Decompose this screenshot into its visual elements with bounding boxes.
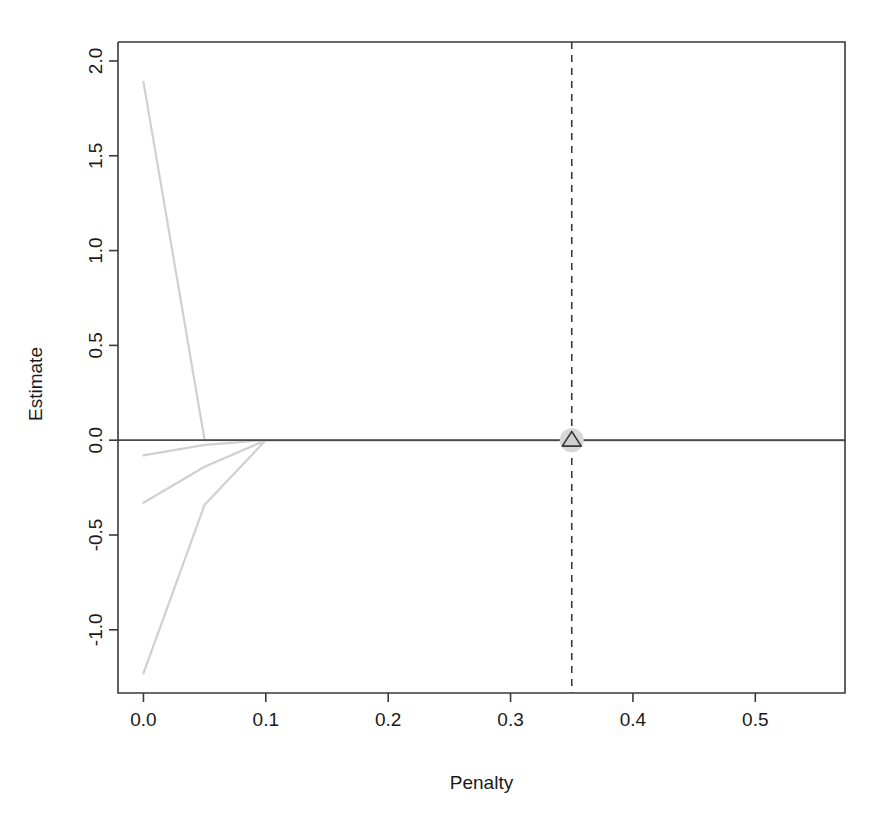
y-tick-label: 0.5 xyxy=(86,332,107,358)
estimate-vs-penalty-chart: 0.00.10.20.30.40.5 -1.0-0.50.00.51.01.52… xyxy=(0,0,880,820)
plot-frame xyxy=(118,42,845,693)
y-tick-label: 0.0 xyxy=(86,427,107,453)
x-axis-ticks: 0.00.10.20.30.40.5 xyxy=(130,693,768,730)
y-tick-label: 1.0 xyxy=(86,237,107,263)
x-tick-label: 0.4 xyxy=(620,709,647,730)
coefficient-path xyxy=(143,82,845,440)
x-tick-label: 0.5 xyxy=(742,709,768,730)
coefficient-path xyxy=(143,440,845,673)
y-axis-ticks: -1.0-0.50.00.51.01.52.0 xyxy=(86,48,119,646)
x-tick-label: 0.3 xyxy=(497,709,523,730)
x-tick-label: 0.1 xyxy=(253,709,279,730)
y-tick-label: -1.0 xyxy=(86,613,107,646)
y-tick-label: -0.5 xyxy=(86,519,107,552)
chart-svg: 0.00.10.20.30.40.5 -1.0-0.50.00.51.01.52… xyxy=(0,0,880,820)
x-axis-title: Penalty xyxy=(450,772,514,793)
y-tick-label: 1.5 xyxy=(86,143,107,169)
x-tick-label: 0.2 xyxy=(375,709,401,730)
x-tick-label: 0.0 xyxy=(130,709,156,730)
coefficient-path-group xyxy=(143,82,845,674)
y-axis-title: Estimate xyxy=(25,347,46,421)
y-tick-label: 2.0 xyxy=(86,48,107,74)
coefficient-path xyxy=(143,440,845,503)
selected-point-marker xyxy=(560,428,584,452)
